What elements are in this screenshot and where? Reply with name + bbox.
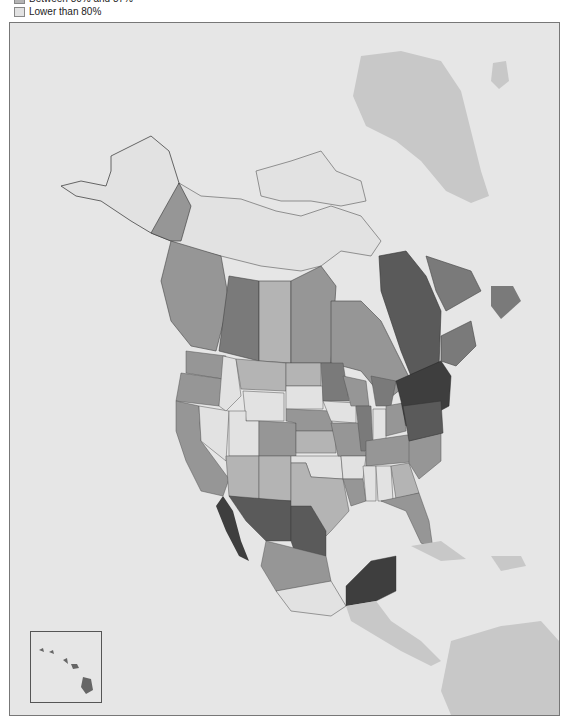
colorado <box>259 421 296 456</box>
new-mexico <box>259 456 291 501</box>
legend: Between 80% and 87% Lower than 80% <box>14 0 133 18</box>
greenland <box>353 51 489 203</box>
kansas <box>296 431 336 453</box>
south-america <box>441 621 559 715</box>
newfoundland <box>491 286 521 319</box>
saskatchewan <box>259 281 291 363</box>
oregon <box>176 373 223 406</box>
manitoba <box>291 266 336 363</box>
legend-swatch <box>14 0 25 4</box>
hispaniola <box>491 556 526 571</box>
map-frame <box>9 22 560 716</box>
hawaii-inset <box>30 631 102 703</box>
central-america <box>346 601 441 666</box>
legend-item-lower-80: Lower than 80% <box>14 5 133 18</box>
michigan <box>371 376 396 406</box>
iceland <box>491 61 509 89</box>
north-america-map <box>10 23 559 715</box>
north-dakota <box>286 363 321 386</box>
alabama <box>376 466 393 501</box>
arizona <box>226 456 259 501</box>
british-columbia <box>161 241 229 351</box>
arctic-islands <box>256 151 366 206</box>
arkansas <box>341 456 366 479</box>
florida <box>381 493 433 549</box>
yucatan <box>346 556 396 606</box>
cuba <box>411 541 466 561</box>
montana <box>236 359 286 391</box>
legend-label: Lower than 80% <box>29 5 101 18</box>
hawaii-map <box>31 632 101 702</box>
wyoming <box>243 391 284 421</box>
indiana <box>373 409 386 443</box>
hawaii-islands <box>39 648 93 694</box>
south-dakota <box>286 386 323 409</box>
wisconsin <box>343 376 369 406</box>
maritimes <box>441 321 476 366</box>
legend-swatch <box>14 7 25 17</box>
